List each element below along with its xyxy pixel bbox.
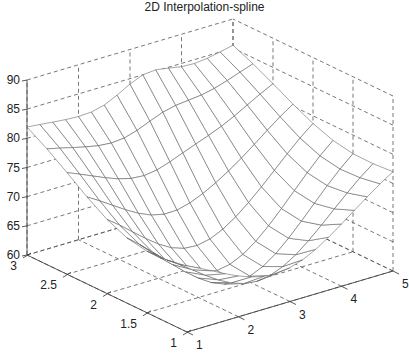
svg-text:5: 5 [402,277,409,291]
svg-text:85: 85 [7,102,21,116]
svg-text:65: 65 [7,219,21,233]
svg-text:70: 70 [7,190,21,204]
svg-text:1: 1 [196,338,203,352]
chart-title: 2D Interpolation-spline [0,0,409,14]
svg-text:1: 1 [170,336,177,350]
svg-text:75: 75 [7,161,21,175]
svg-text:2: 2 [248,323,255,337]
svg-text:2.5: 2.5 [40,278,57,292]
svg-text:80: 80 [7,131,21,145]
svg-text:1.5: 1.5 [120,317,137,331]
svg-text:2: 2 [90,298,97,312]
plot-area: 6065707580859011.522.5312345 [0,0,409,357]
svg-text:3: 3 [299,308,306,322]
svg-text:4: 4 [351,292,358,306]
surface-plot-figure: 2D Interpolation-spline 6065707580859011… [0,0,409,357]
svg-text:3: 3 [10,259,17,273]
surface-mesh [27,45,393,284]
svg-text:90: 90 [7,73,21,87]
